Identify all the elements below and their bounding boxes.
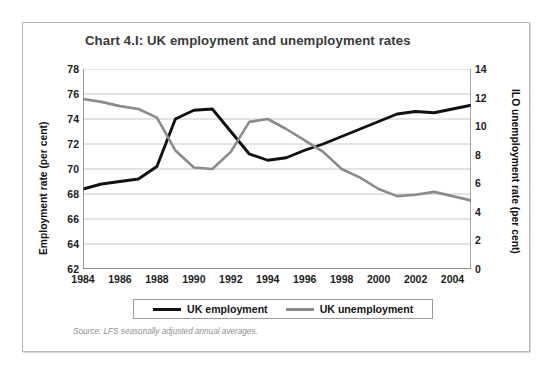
x-axis-tick-label: 1992: [219, 273, 242, 285]
legend-line-swatch-unemployment: [286, 308, 314, 311]
y-axis-left-tick-label: 70: [45, 163, 79, 175]
y-axis-right-ticks: 02468101214: [475, 69, 515, 269]
plot-area: [83, 69, 471, 269]
y-axis-right-tick-label: 12: [475, 92, 509, 104]
x-axis-tick-label: 1984: [71, 273, 94, 285]
chart-legend: UK employment UK unemployment: [133, 299, 433, 319]
y-axis-right-tick-label: 0: [475, 263, 509, 275]
y-axis-right-title: ILO unemployment rate (per cent): [510, 89, 521, 254]
x-axis-tick-label: 1986: [108, 273, 131, 285]
y-axis-right-tick-label: 4: [475, 206, 509, 218]
series-lines: [83, 99, 471, 200]
x-axis-tick-label: 2002: [404, 273, 427, 285]
x-axis-tick-label: 1994: [256, 273, 279, 285]
chart-title: Chart 4.I: UK employment and unemploymen…: [85, 33, 411, 48]
x-axis-ticks: 1984198619881990199219941996199820002002…: [83, 273, 471, 289]
y-axis-right-tick-label: 8: [475, 149, 509, 161]
x-axis-tick-label: 1998: [330, 273, 353, 285]
y-axis-left-title: Employment rate (per cent): [38, 122, 49, 255]
y-axis-left-tick-label: 74: [45, 113, 79, 125]
y-axis-right-tick-label: 6: [475, 177, 509, 189]
y-axis-right-tick-label: 14: [475, 63, 509, 75]
legend-label-employment: UK employment: [187, 303, 268, 315]
legend-item-employment: UK employment: [153, 303, 268, 315]
legend-label-unemployment: UK unemployment: [320, 303, 414, 315]
x-axis-tick-label: 1996: [293, 273, 316, 285]
x-axis-tick-label: 1988: [145, 273, 168, 285]
y-axis-left-tick-label: 64: [45, 238, 79, 250]
y-axis-left-tick-label: 66: [45, 213, 79, 225]
x-axis-tick-label: 2000: [367, 273, 390, 285]
x-axis-tick-label: 1990: [182, 273, 205, 285]
y-axis-right-tick-label: 2: [475, 234, 509, 246]
y-axis-left-tick-label: 78: [45, 63, 79, 75]
y-axis-left-tick-label: 72: [45, 138, 79, 150]
y-axis-left-tick-label: 68: [45, 188, 79, 200]
legend-line-swatch-employment: [153, 308, 181, 311]
gridlines: [83, 69, 471, 269]
screenshot-page: Chart 4.I: UK employment and unemploymen…: [0, 0, 554, 372]
source-note: Source: LFS seasonally adjusted annual a…: [73, 327, 258, 336]
x-axis-tick-label: 2004: [441, 273, 464, 285]
chart-panel: Chart 4.I: UK employment and unemploymen…: [22, 22, 530, 352]
y-axis-left-tick-label: 76: [45, 88, 79, 100]
plot-svg: [83, 69, 471, 269]
legend-item-unemployment: UK unemployment: [286, 303, 414, 315]
y-axis-right-tick-label: 10: [475, 120, 509, 132]
